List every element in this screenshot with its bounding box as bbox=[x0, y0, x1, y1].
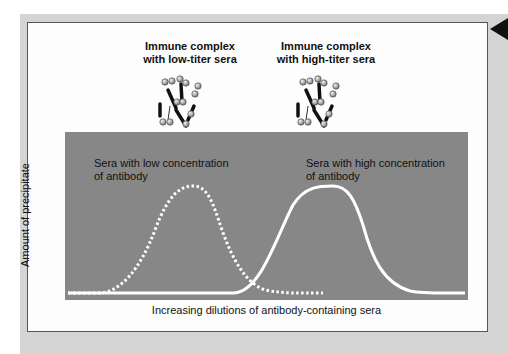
y-axis-label: Amount of precipitate bbox=[19, 163, 31, 267]
high-concentration-label: Sera with high concentration of antibody bbox=[306, 157, 445, 183]
high-concentration-curve bbox=[68, 186, 465, 293]
x-axis-label: Increasing dilutions of antibody-contain… bbox=[65, 304, 468, 316]
low-concentration-curve bbox=[68, 186, 323, 293]
low-concentration-label: Sera with low concentration of antibody bbox=[94, 157, 229, 183]
